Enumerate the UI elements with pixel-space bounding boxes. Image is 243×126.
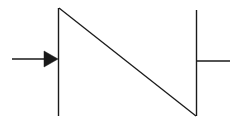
input-arrow-icon [44,51,58,67]
diagonal-line [59,8,196,116]
schematic-diagram [0,0,243,126]
symbol-svg [0,0,243,126]
